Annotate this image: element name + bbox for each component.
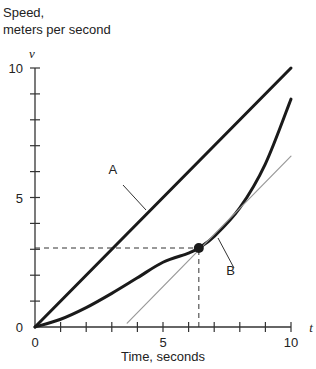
y-variable-label: v: [29, 46, 35, 61]
x-tick-label: 5: [159, 335, 166, 350]
series-label-b: B: [226, 263, 235, 278]
x-variable-label: t: [309, 320, 313, 335]
x-axis-title: Time, seconds: [0, 349, 316, 364]
y-tick-label: 5: [16, 191, 23, 206]
series-label-a: A: [109, 162, 118, 177]
series-b: [35, 99, 291, 327]
guide-lines: [35, 248, 199, 327]
chart-plot: 05100510vtAB: [0, 0, 316, 369]
y-tick-label: 10: [9, 61, 23, 76]
series-group: [35, 68, 291, 327]
x-tick-label: 10: [284, 335, 298, 350]
x-tick-label: 0: [31, 335, 38, 350]
series-a: [35, 68, 291, 327]
leader-line-a: [123, 185, 146, 210]
series-tangent: [127, 156, 291, 323]
y-tick-label: 0: [16, 320, 23, 335]
tangent-point-marker: [194, 243, 204, 253]
